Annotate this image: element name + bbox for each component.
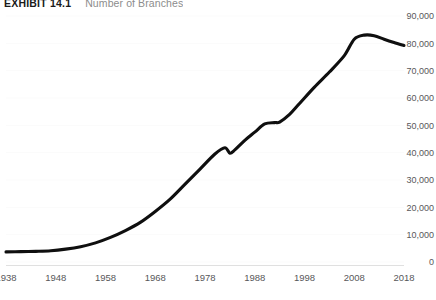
y-axis-tick-label: 70,000 <box>406 66 434 76</box>
y-axis-tick-label: 10,000 <box>406 230 434 240</box>
x-axis-area: 193819481958196819781988199820082018 <box>0 265 436 300</box>
y-axis-tick-label: 80,000 <box>406 39 434 49</box>
x-axis-tick-label: 2008 <box>344 272 365 283</box>
y-axis-tick-label: 20,000 <box>406 203 434 213</box>
y-axis-tick-label: 50,000 <box>406 121 434 131</box>
x-axis-tick-label: 1958 <box>95 272 116 283</box>
x-axis-svg: 193819481958196819781988199820082018 <box>0 265 436 300</box>
chart-container: EXHIBIT 14.1 Number of Branches 90,00080… <box>0 0 436 300</box>
x-axis-tick-label: 1998 <box>294 272 315 283</box>
data-series-line <box>6 35 404 252</box>
chart-header: EXHIBIT 14.1 Number of Branches <box>4 0 183 10</box>
y-axis-tick-labels: 90,00080,00070,00060,00050,00040,00030,0… <box>406 11 434 265</box>
y-axis-tick-label: 90,000 <box>406 11 434 21</box>
y-axis-tick-label: 30,000 <box>406 175 434 185</box>
x-axis-tick-label: 1938 <box>0 272 17 283</box>
y-axis-tick-label: 40,000 <box>406 148 434 158</box>
exhibit-label: EXHIBIT 14.1 <box>4 0 71 9</box>
chart-subtitle: Number of Branches <box>85 0 183 9</box>
x-axis-tick-label: 1948 <box>45 272 66 283</box>
series-group <box>6 35 404 252</box>
line-chart-svg: 90,00080,00070,00060,00050,00040,00030,0… <box>0 10 436 265</box>
x-axis-tick-label: 1968 <box>145 272 166 283</box>
x-axis-tick-label: 2018 <box>393 272 414 283</box>
plot-area: 90,00080,00070,00060,00050,00040,00030,0… <box>0 10 436 265</box>
x-axis-tick-label: 1988 <box>244 272 265 283</box>
x-axis-tick-labels: 193819481958196819781988199820082018 <box>0 272 415 283</box>
y-axis-tick-label: 0 <box>429 257 434 265</box>
x-axis-tick-label: 1978 <box>194 272 215 283</box>
y-axis-tick-label: 60,000 <box>406 93 434 103</box>
